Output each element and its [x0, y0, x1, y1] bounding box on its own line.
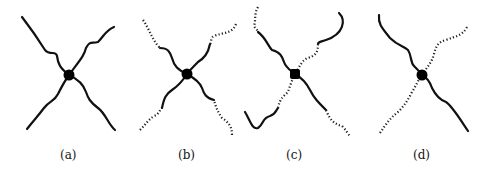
panel-b: (b)	[140, 20, 236, 162]
panel-c-label: (c)	[286, 148, 302, 162]
panel-a-label: (a)	[60, 148, 77, 162]
core-node	[290, 69, 300, 79]
core-node	[417, 70, 428, 81]
core-node	[64, 70, 75, 81]
star-polymer-figure: (a) (b) (c) (d)	[0, 0, 489, 170]
panel-c: (c)	[245, 7, 350, 162]
panel-b-label: (b)	[178, 148, 195, 162]
core-node	[182, 69, 193, 80]
panel-d: (d)	[379, 15, 468, 162]
panel-d-label: (d)	[413, 148, 430, 162]
panel-a: (a)	[22, 17, 115, 162]
